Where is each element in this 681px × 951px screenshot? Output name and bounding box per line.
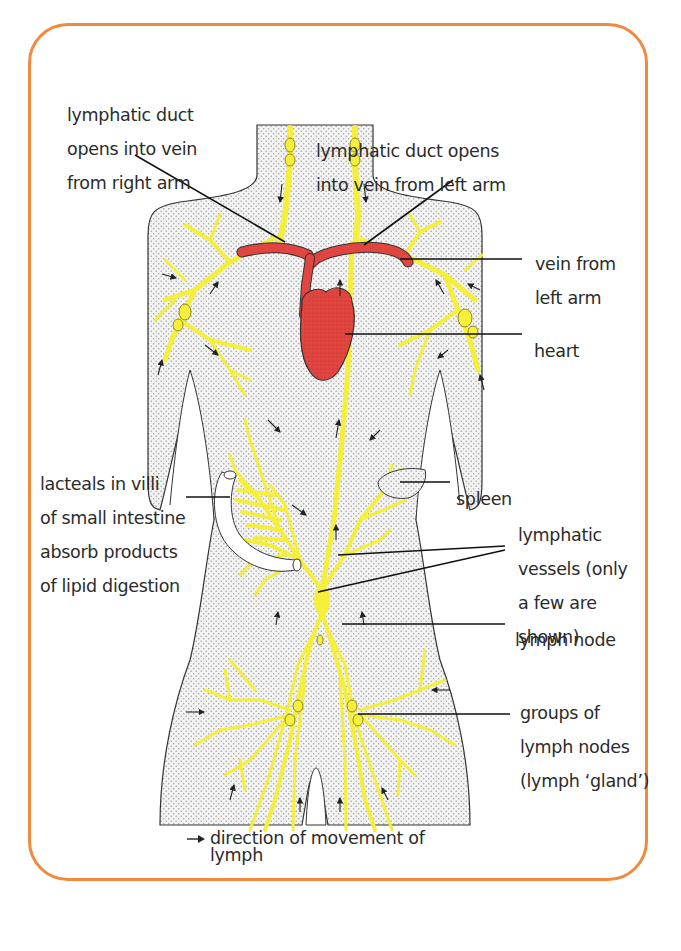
- label-heart: heart: [534, 326, 579, 377]
- label-vein-left-arm: vein from left arm: [535, 239, 616, 324]
- label-spleen: spleen: [456, 474, 512, 525]
- body-silhouette: [148, 125, 482, 825]
- legend-text-line-2: lymph: [210, 847, 425, 864]
- label-lymph-gland: groups of lymph nodes (lymph ‘gland’): [520, 688, 649, 807]
- legend: direction of movement of lymph: [186, 830, 425, 864]
- label-lymphatic-duct-right: lymphatic duct opens into vein from righ…: [67, 90, 197, 209]
- label-lymph-node: lymph node: [515, 615, 616, 666]
- label-lacteals: lacteals in villi of small intestine abs…: [40, 459, 186, 612]
- arrow-right-icon: [186, 830, 206, 849]
- label-lymphatic-duct-left: lymphatic duct opens into vein from left…: [316, 126, 506, 211]
